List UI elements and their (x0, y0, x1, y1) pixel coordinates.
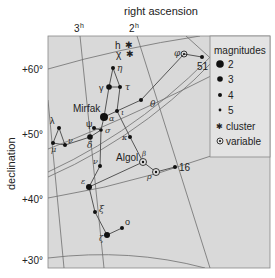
legend-cluster-label: cluster (226, 121, 256, 132)
label-16: 16 (179, 162, 191, 173)
star-zeta (104, 232, 110, 238)
label-zeta: ζ (99, 234, 104, 243)
label-beta: β (141, 150, 146, 158)
star-psi (92, 126, 96, 130)
label-kappa: κ (121, 133, 128, 142)
legend-mag5-icon (219, 109, 222, 112)
legend-mag3-label: 3 (228, 74, 234, 85)
legend-mag5-label: 5 (228, 105, 234, 116)
cluster-chi-marker: ✱ (126, 49, 134, 59)
y-tick-40: +40° (22, 194, 43, 205)
star-gamma (106, 84, 112, 90)
label-sigma: σ (105, 126, 111, 135)
label-eta: η (117, 63, 123, 73)
label-delta: δ (87, 140, 92, 150)
star-51 (200, 55, 204, 59)
star-chart: ✱ ✱ h χ η γ τ Mirfak α ι (0, 0, 275, 278)
x-tick-3h-sup: h (80, 22, 84, 29)
legend-mag4-label: 4 (228, 90, 234, 101)
label-nu: ν (68, 136, 73, 145)
star-omicron (120, 226, 124, 230)
x-axis-title: right ascension (124, 5, 198, 17)
label-mirfak: Mirfak (73, 103, 101, 114)
star-lambda (57, 126, 61, 130)
star-rho (155, 171, 157, 173)
label-lambda: λ (50, 116, 55, 126)
legend-cluster-icon: ✱ (216, 122, 223, 131)
label-iota: ι (121, 108, 124, 117)
label-mu: μ (51, 145, 56, 154)
legend-mag2-icon (216, 60, 224, 68)
y-axis-title: declination (5, 137, 17, 190)
label-theta: θ (150, 99, 156, 109)
star-algol (142, 161, 144, 163)
label-epsilon: ε (81, 177, 85, 186)
label-alpha: α (109, 114, 115, 123)
label-psi: ψ (86, 119, 92, 129)
legend-mag2-label: 2 (228, 59, 234, 70)
star-delta (87, 134, 93, 140)
label-algol: Algol (116, 152, 138, 163)
star-16 (173, 165, 177, 169)
star-sigma (99, 128, 103, 132)
star-theta (139, 98, 143, 102)
y-tick-50: +50° (22, 129, 43, 140)
y-tick-60: +60° (22, 64, 43, 75)
star-epsilon (86, 184, 92, 190)
y-tick-30: +30° (22, 255, 43, 266)
label-cluster-chi: χ (116, 49, 122, 60)
star-mirfak (100, 113, 108, 121)
legend-title: magnitudes (214, 45, 266, 56)
star-nu (63, 143, 67, 147)
star-nu2 (98, 164, 102, 168)
label-51: 51 (197, 61, 209, 72)
legend-variable-label: variable (226, 136, 261, 147)
label-phi: φ (174, 48, 181, 58)
star-tau (118, 85, 122, 89)
label-gamma: γ (99, 83, 104, 93)
legend-mag4-icon (218, 93, 222, 97)
label-nu2: ν (93, 157, 98, 166)
star-kappa (128, 135, 132, 139)
legend-mag3-icon (217, 76, 223, 82)
star-phi (183, 53, 185, 55)
star-iota (115, 109, 119, 113)
label-rho: ρ (146, 172, 152, 181)
label-omicron: o (125, 217, 130, 227)
x-tick-2h-sup: h (135, 22, 139, 29)
star-eta (111, 66, 115, 70)
legend: magnitudes 2 3 4 5 ✱ cluster variable (210, 36, 270, 157)
star-xi (93, 210, 97, 214)
legend-variable-dot-icon (219, 140, 221, 142)
